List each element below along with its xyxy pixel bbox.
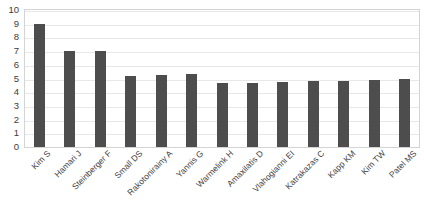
bar — [34, 24, 45, 147]
bar — [277, 82, 288, 147]
bar — [125, 76, 136, 147]
y-axis-tick-label: 9 — [14, 19, 19, 29]
y-axis-tick-label: 5 — [14, 74, 19, 84]
x-axis: Kim SHamari JSteinberger FSmall DSRakoto… — [24, 149, 420, 211]
bar — [338, 81, 349, 147]
y-axis-tick-label: 0 — [14, 142, 19, 152]
bar — [399, 79, 410, 147]
bar — [156, 75, 167, 147]
bar — [186, 74, 197, 147]
bar-chart: 109876543210 Kim SHamari JSteinberger FS… — [0, 0, 424, 214]
bar — [95, 51, 106, 147]
y-axis-tick-label: 6 — [14, 60, 19, 70]
bar — [308, 81, 319, 147]
bar — [369, 80, 380, 147]
bar — [217, 83, 228, 147]
y-axis-tick-label: 10 — [8, 5, 19, 15]
y-axis-tick-label: 8 — [14, 33, 19, 43]
y-axis-tick-label: 1 — [14, 129, 19, 139]
bar — [64, 51, 75, 147]
y-axis-tick-label: 2 — [14, 115, 19, 125]
bar — [247, 83, 258, 147]
y-axis-tick-label: 3 — [14, 101, 19, 111]
bars-series — [24, 9, 420, 148]
y-axis-tick-label: 4 — [14, 87, 19, 97]
y-axis: 109876543210 — [0, 9, 22, 148]
y-axis-tick-label: 7 — [14, 46, 19, 56]
